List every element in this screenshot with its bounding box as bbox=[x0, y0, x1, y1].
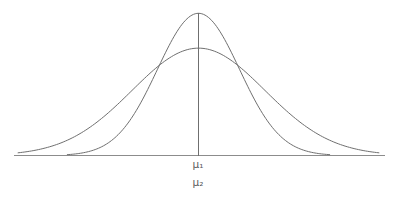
plot-area bbox=[0, 0, 397, 204]
normal-distribution-figure: μ₁ μ₂ bbox=[0, 0, 397, 204]
